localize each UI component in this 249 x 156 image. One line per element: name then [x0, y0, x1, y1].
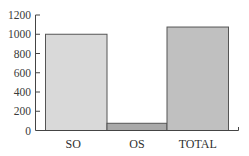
y-tick-label: 800: [14, 48, 32, 60]
y-tick-label: 400: [14, 86, 32, 98]
bar-os: [107, 123, 167, 130]
x-labels-group: SOOSTOTAL: [66, 137, 217, 151]
bar-so: [46, 34, 108, 130]
bars-group: [46, 27, 229, 130]
y-tick-label: 1000: [8, 28, 31, 40]
y-tick-label: 200: [14, 105, 32, 117]
y-tick-label: 0: [25, 125, 31, 137]
x-label-total: TOTAL: [179, 137, 217, 151]
bar-chart: 020040060080010001200 SOOSTOTAL: [0, 0, 249, 156]
x-label-os: OS: [129, 137, 144, 151]
x-label-so: SO: [66, 137, 82, 151]
y-tick-label: 600: [14, 67, 32, 79]
y-tick-label: 1200: [8, 9, 31, 21]
bar-total: [167, 27, 229, 130]
